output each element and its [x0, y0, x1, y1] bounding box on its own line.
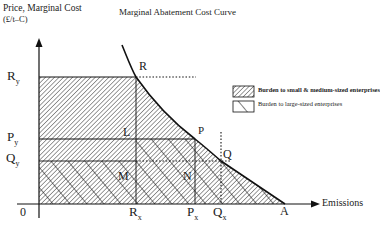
ry-label: Ry: [7, 68, 20, 86]
origin-label: 0: [20, 205, 26, 220]
qy-label: Qy: [6, 150, 19, 168]
x-axis-title: Emissions: [322, 197, 363, 208]
point-m-label: M: [118, 169, 129, 184]
x-axis-arrow-icon: [311, 201, 320, 208]
legend-label-large: Burden to large-sized enterprises: [258, 100, 342, 107]
a-label: A: [280, 204, 289, 219]
point-p-label: P: [198, 124, 204, 136]
point-n-label: N: [183, 169, 192, 184]
curve-label: Marginal Abatement Cost Curve: [119, 7, 236, 17]
y-axis-arrow-icon: [36, 38, 43, 47]
px-label: Px: [187, 204, 198, 222]
legend-swatch-sme: [233, 86, 254, 97]
point-l-label: L: [123, 125, 130, 140]
rx-label: Rx: [129, 204, 142, 222]
py-label: Py: [7, 129, 18, 147]
legend-label-sme: Burden to small & medium-sized enterpris…: [258, 86, 380, 93]
qx-label: Qx: [213, 204, 226, 222]
point-q-label: Q: [223, 147, 232, 162]
legend-swatch-large: [233, 101, 254, 112]
point-r-label: R: [139, 59, 147, 74]
